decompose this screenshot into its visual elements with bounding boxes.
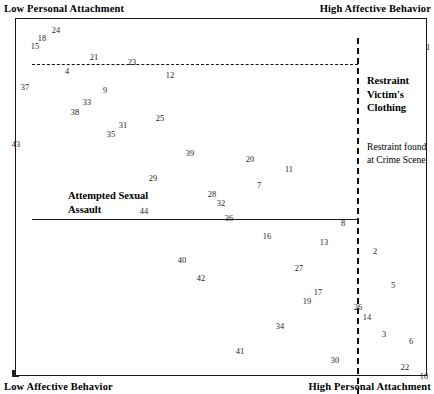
partition-line-middle-solid bbox=[32, 219, 358, 220]
data-point-label: 7 bbox=[257, 181, 261, 190]
data-point-label: 41 bbox=[236, 347, 244, 356]
data-point-label: 11 bbox=[285, 165, 293, 174]
data-point-label: 35 bbox=[107, 130, 115, 139]
data-point-label: 10 bbox=[420, 372, 428, 381]
data-point-label: 14 bbox=[363, 313, 371, 322]
data-point-label: 4 bbox=[65, 67, 69, 76]
data-point-label: 20 bbox=[246, 155, 254, 164]
region-label-restraint-found-at-crime-scene: Restraint found at Crime Scene bbox=[367, 141, 434, 166]
data-point-label: 21 bbox=[90, 53, 98, 62]
region-label-attempted-sexual-assault: Attempted Sexual Assault bbox=[68, 189, 198, 216]
axis-label-top-left: Low Personal Attachment bbox=[4, 3, 124, 15]
data-point-label: 5 bbox=[391, 281, 395, 290]
axis-label-bottom-left: Low Affective Behavior bbox=[4, 381, 113, 393]
data-point-label: 39 bbox=[186, 149, 194, 158]
data-point-label: 29 bbox=[149, 174, 157, 183]
data-point-label: 42 bbox=[197, 274, 205, 283]
data-point-label: 23 bbox=[128, 58, 136, 67]
data-point-label: 22 bbox=[401, 363, 409, 372]
region-label-restraint-victims-clothing: Restraint Victim's Clothing bbox=[367, 74, 434, 115]
data-point-label: 3 bbox=[382, 330, 386, 339]
data-point-label: 27 bbox=[295, 264, 303, 273]
axis-label-top-right: High Affective Behavior bbox=[320, 3, 431, 15]
data-point-label: 19 bbox=[303, 297, 311, 306]
data-point-label: 12 bbox=[166, 71, 174, 80]
plot-frame: Restraint Victim's Clothing Restraint fo… bbox=[15, 18, 427, 376]
data-point-label: 8 bbox=[341, 219, 345, 228]
ssa-plot: Low Personal Attachment High Affective B… bbox=[0, 0, 434, 394]
data-point-label: 34 bbox=[276, 322, 284, 331]
data-point-label: 33 bbox=[83, 98, 91, 107]
partition-line-upper-dashed bbox=[32, 64, 358, 65]
data-point-label: 2 bbox=[373, 247, 377, 256]
data-point-label: 13 bbox=[320, 238, 328, 247]
data-point-label: 32 bbox=[217, 199, 225, 208]
data-point-label: 40 bbox=[178, 256, 186, 265]
data-point-label: 37 bbox=[21, 83, 29, 92]
data-point-label: 26 bbox=[354, 303, 362, 312]
data-point-label: 30 bbox=[331, 356, 339, 365]
data-point-label: 9 bbox=[103, 86, 107, 95]
data-point-label: 15 bbox=[31, 42, 39, 51]
data-point-label: 38 bbox=[71, 108, 79, 117]
data-point-label: 1 bbox=[426, 43, 430, 52]
data-point-label: 24 bbox=[52, 26, 60, 35]
data-point-label: 31 bbox=[119, 121, 127, 130]
data-point-label: 43 bbox=[12, 140, 20, 149]
data-point-label: 44 bbox=[140, 207, 148, 216]
data-point-label: 16 bbox=[263, 232, 271, 241]
axis-label-bottom-right: High Personal Attachment bbox=[308, 381, 431, 393]
data-point-label: 6 bbox=[409, 337, 413, 346]
data-point-label: 17 bbox=[314, 288, 322, 297]
data-point-label: 36 bbox=[225, 214, 233, 223]
data-point-label: 28 bbox=[208, 190, 216, 199]
data-point-label: 25 bbox=[156, 114, 164, 123]
partition-line-right-dashed bbox=[357, 38, 359, 394]
